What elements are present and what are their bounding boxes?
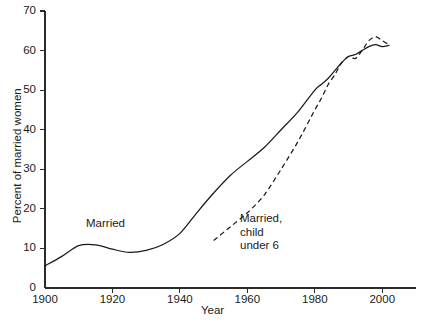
series-label-married-child-under-6: Married, child under 6 [240,212,282,253]
y-tick-label: 70 [0,5,36,17]
x-tick-label: 1980 [290,294,340,306]
x-tick-label: 1920 [87,294,137,306]
y-tick-label: 0 [0,282,36,294]
plot-area [0,0,425,323]
y-tick-label: 60 [0,45,36,57]
y-ticks-group [40,11,45,248]
series-label-married: Married [86,217,125,231]
series-line-married-child-under-6 [214,37,389,241]
y-tick-label: 10 [0,242,36,254]
series-line-married [45,45,389,266]
x-tick-label: 2000 [357,294,407,306]
x-axis-title: Year [0,305,425,317]
x-tick-label: 1900 [20,294,70,306]
y-axis-title: Percent of married women [12,76,24,236]
series-group [45,37,389,266]
x-tick-label: 1960 [222,294,272,306]
chart-figure: 010203040506070 190019201940196019802000… [0,0,425,323]
x-tick-label: 1940 [155,294,205,306]
